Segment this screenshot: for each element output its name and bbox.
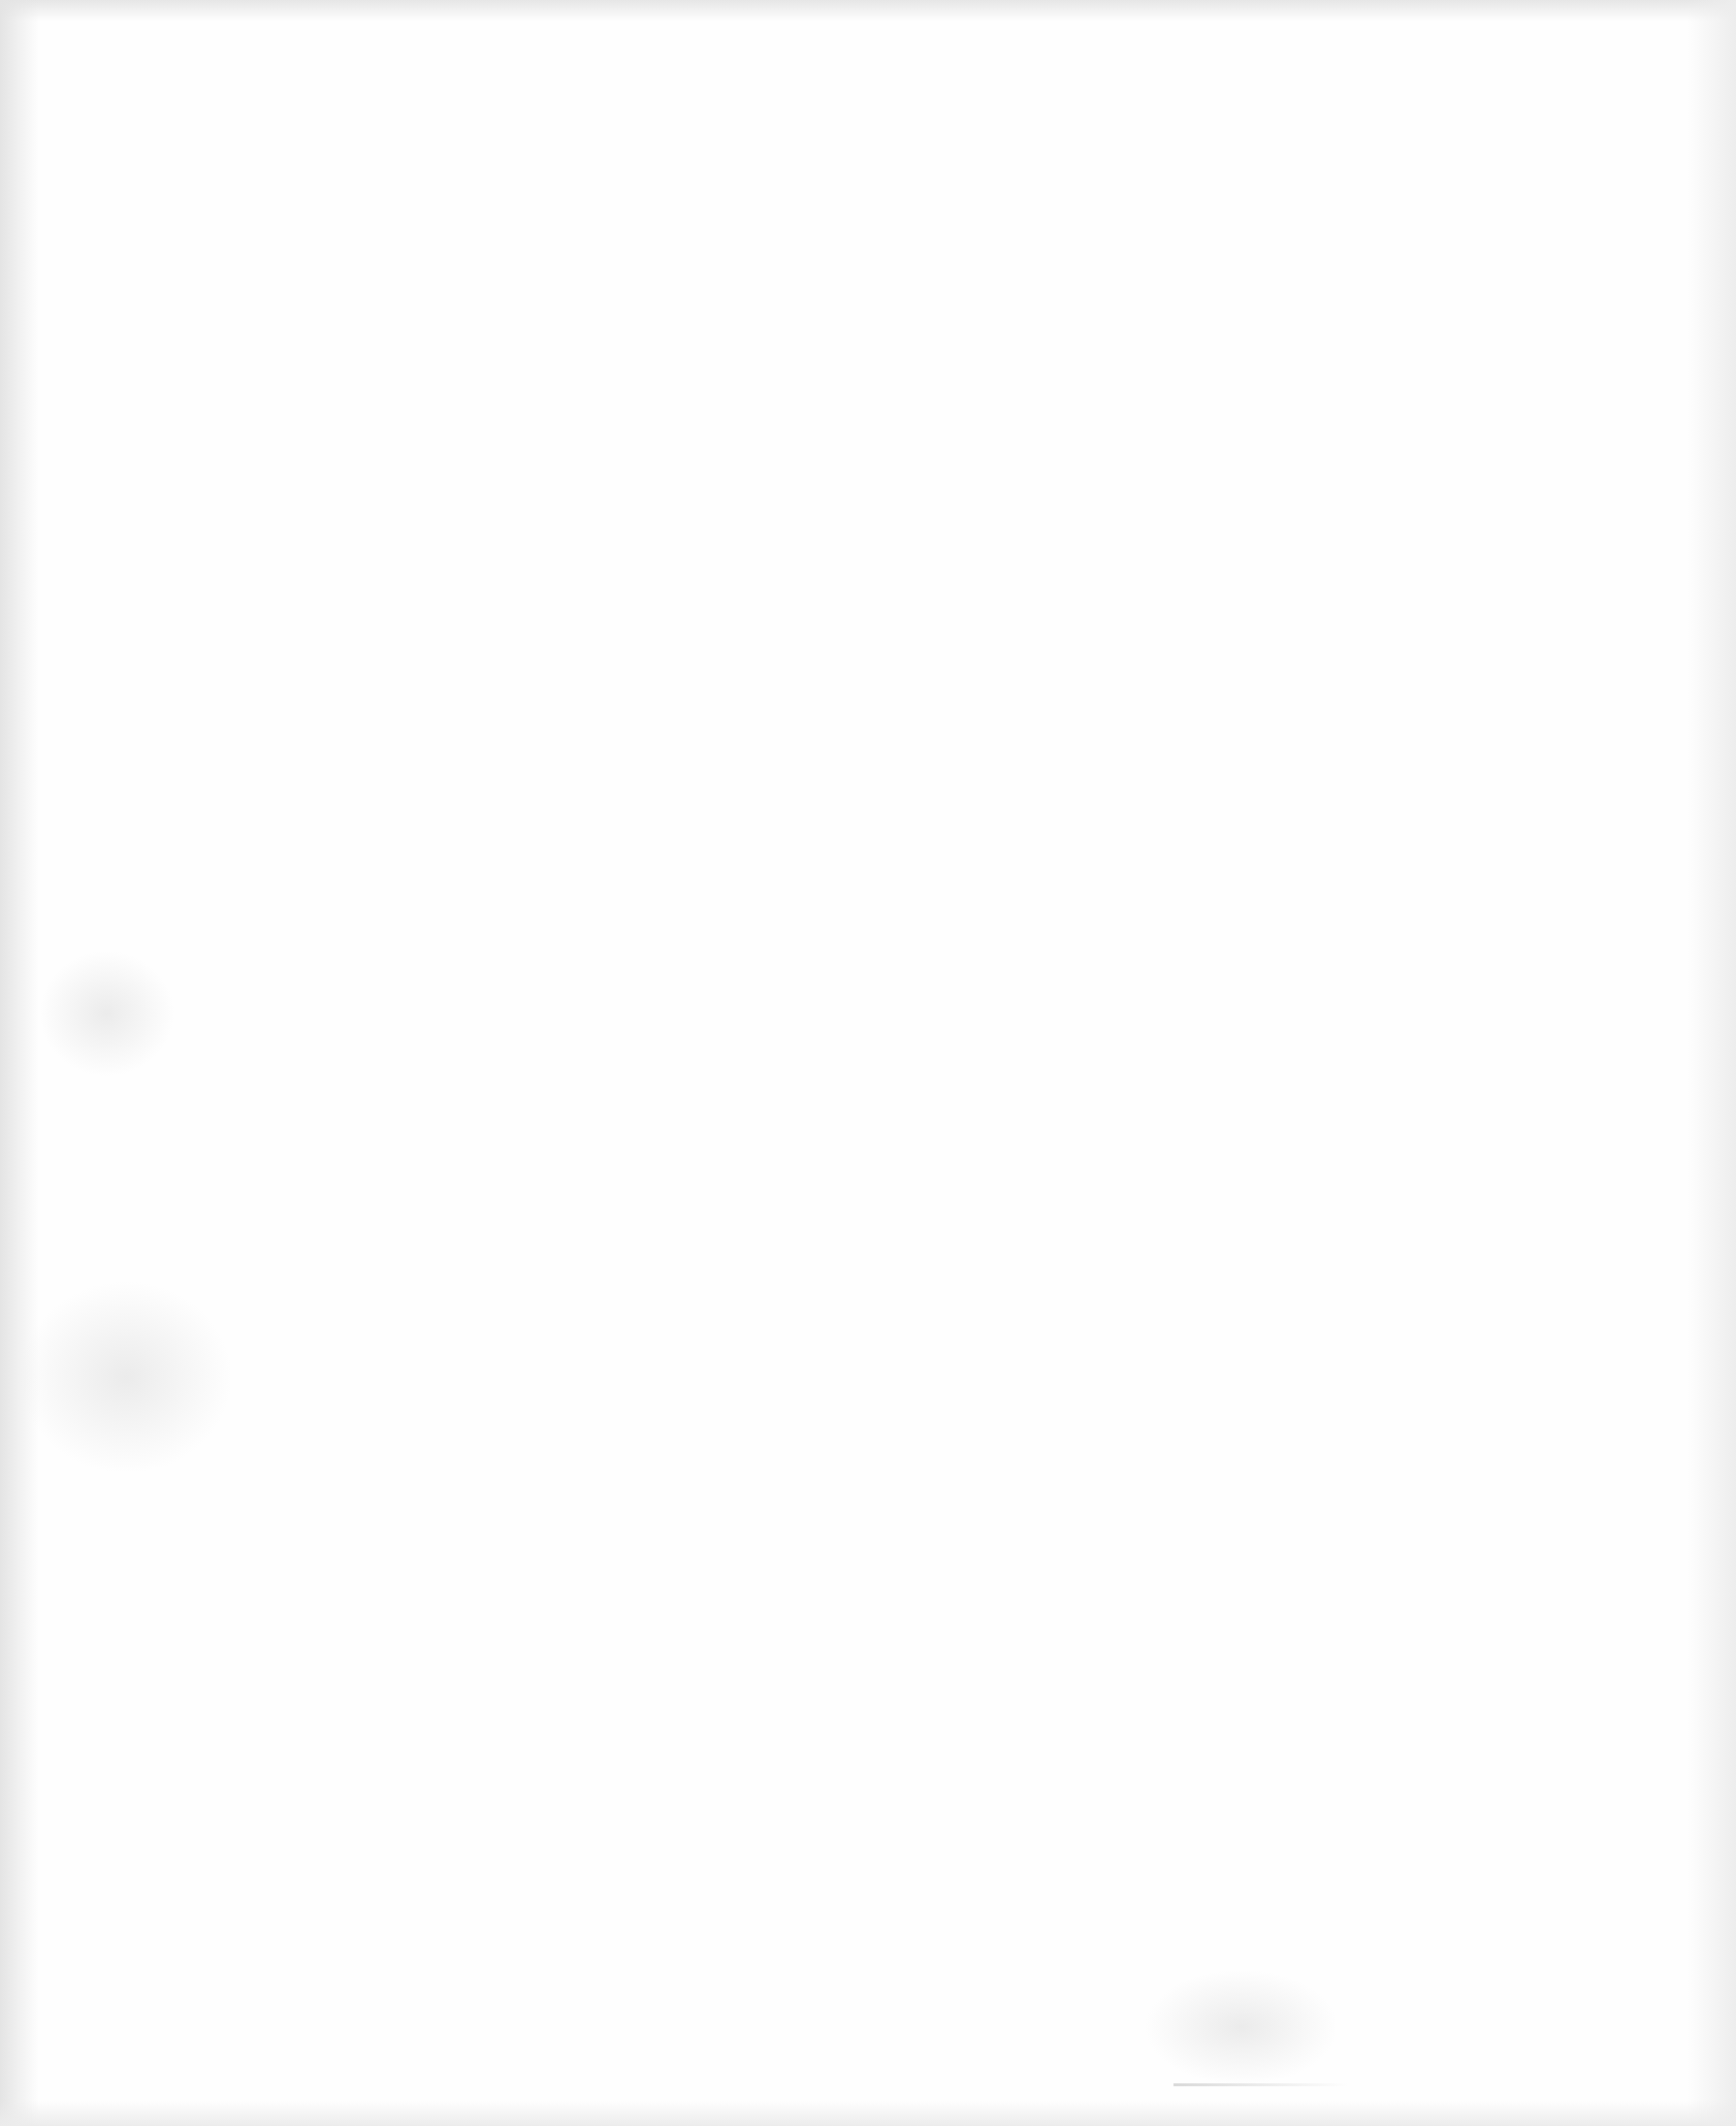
scan-edge-right bbox=[1688, 0, 1736, 2126]
blank-scanned-page bbox=[0, 0, 1736, 2126]
scan-edge-top bbox=[0, 0, 1736, 21]
show-through-mark bbox=[1173, 2083, 1348, 2086]
scan-edge-left bbox=[0, 0, 39, 2126]
scan-edge-bottom bbox=[0, 2101, 1736, 2126]
scan-smudge bbox=[19, 1280, 233, 1474]
scan-smudge bbox=[39, 950, 175, 1077]
scan-smudge bbox=[1144, 1969, 1338, 2085]
